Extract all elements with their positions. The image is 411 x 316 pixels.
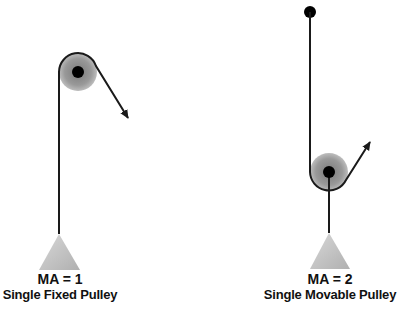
fixed-pulley-title: Single Fixed Pulley [0,287,120,302]
fixed-pulley-diagram [39,53,128,270]
movable-pulley-title: Single Movable Pulley [255,287,405,302]
movable-pulley-ma: MA = 2 [255,271,405,287]
movable-pulley-axle [323,166,335,178]
movable-pulley-diagram [304,6,370,269]
fixed-pulley-caption: MA = 1 Single Fixed Pulley [0,271,120,302]
movable-pulley-caption: MA = 2 Single Movable Pulley [255,271,405,302]
movable-pulley-weight [310,233,350,269]
fixed-pulley-weight [39,234,80,270]
fixed-pulley-ma: MA = 1 [0,271,120,287]
fixed-pulley-axle [72,66,84,78]
pulley-diagrams [0,0,411,316]
